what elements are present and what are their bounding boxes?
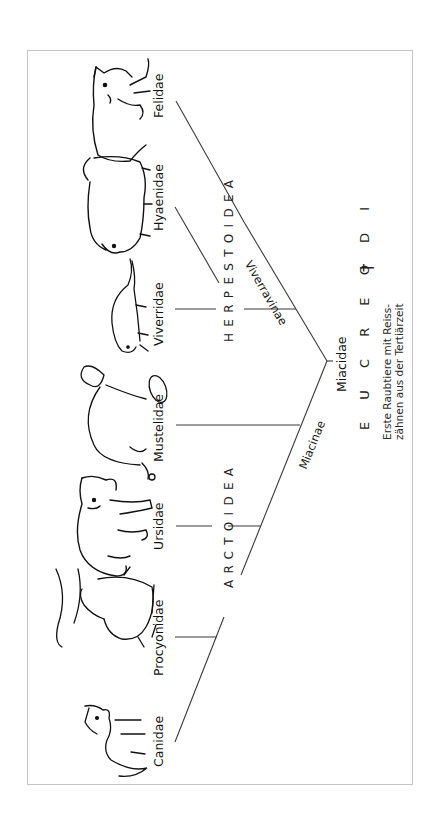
- root-note-line-1: Erste Raubtiere mit Reiss-: [381, 304, 393, 440]
- family-label-felidae: Felidae: [152, 74, 166, 118]
- family-label-hyaenidae: Hyaenidae: [152, 164, 166, 231]
- hyaenidae-branch: [175, 207, 219, 283]
- family-label-viverridae: Viverridae: [152, 282, 166, 346]
- hyena-drawing: [60, 148, 160, 263]
- canidae-branch: [175, 617, 224, 742]
- superfamily-label-herpestoidea: HERPESTOIDEA: [222, 174, 236, 342]
- family-label-mustelidae: Mustelidae: [152, 394, 166, 462]
- family-label-canidae: Canidae: [152, 716, 166, 767]
- bear-drawing: [68, 470, 158, 580]
- root-note-line-2: zähnen aus der Tertiärzeit: [393, 303, 405, 440]
- root-label-eucreodi: E U C R E O D I: [357, 198, 372, 430]
- extinct-dagger-icon: †: [357, 264, 377, 273]
- superfamily-label-arctoidea: ARCTOIDEA: [222, 462, 236, 588]
- fox-drawing: [75, 700, 160, 785]
- miacinae-branch: [241, 361, 327, 575]
- raccoon-drawing: [48, 565, 158, 675]
- family-label-procyonidae: Procyonidae: [152, 600, 166, 676]
- family-label-ursidae: Ursidae: [152, 502, 166, 550]
- ancestor-label-miacidae: Miacidae: [335, 336, 349, 392]
